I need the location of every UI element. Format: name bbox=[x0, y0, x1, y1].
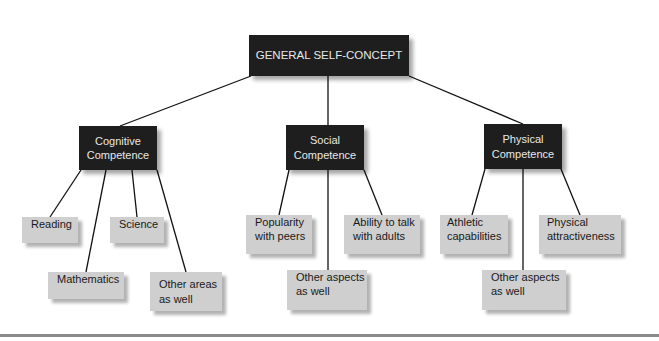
bottom-divider bbox=[0, 334, 659, 337]
category-label-line2: Competence bbox=[492, 147, 554, 161]
leaf-label-line1: Reading bbox=[31, 217, 72, 231]
category-node-cognitive: Cognitive Competence bbox=[79, 126, 157, 170]
leaf-label-line2: attractiveness bbox=[547, 229, 615, 243]
leaf-label-line2: with peers bbox=[255, 229, 305, 243]
category-label-line2: Competence bbox=[294, 148, 356, 162]
leaf-label-line2: as well bbox=[159, 292, 193, 306]
leaf-label-line1: Mathematics bbox=[57, 272, 119, 286]
leaf-node-other-areas: Other areas as well bbox=[150, 272, 222, 311]
leaf-label-line1: Science bbox=[119, 217, 158, 231]
leaf-label-line1: Other aspects bbox=[491, 270, 559, 284]
root-label: GENERAL SELF-CONCEPT bbox=[256, 48, 403, 63]
category-node-social: Social Competence bbox=[286, 125, 364, 170]
category-label-line1: Social bbox=[310, 133, 340, 147]
leaf-node-reading: Reading bbox=[22, 217, 78, 243]
leaf-label-line1: Other aspects bbox=[296, 270, 364, 284]
leaf-label-line1: Other areas bbox=[159, 277, 217, 291]
leaf-node-physical-attractiveness: Physical attractiveness bbox=[539, 215, 621, 254]
leaf-label-line2: as well bbox=[491, 284, 525, 298]
category-label-line1: Cognitive bbox=[95, 134, 141, 148]
leaf-node-social-other: Other aspects as well bbox=[287, 270, 367, 310]
leaf-label-line1: Popularity bbox=[255, 215, 304, 229]
leaf-label-line1: Physical bbox=[547, 215, 588, 229]
leaf-label-line1: Athletic bbox=[447, 215, 483, 229]
root-node-general-self-concept: GENERAL SELF-CONCEPT bbox=[249, 35, 409, 76]
leaf-node-mathematics: Mathematics bbox=[48, 272, 124, 299]
category-node-physical: Physical Competence bbox=[484, 124, 562, 169]
leaf-node-physical-other: Other aspects as well bbox=[482, 270, 566, 310]
leaf-label-line2: as well bbox=[296, 284, 330, 298]
category-label-line1: Physical bbox=[503, 132, 544, 146]
leaf-label-line2: with adults bbox=[353, 229, 405, 243]
leaf-node-science: Science bbox=[110, 217, 164, 243]
category-label-line2: Competence bbox=[87, 148, 149, 162]
leaf-label-line2: capabilities bbox=[447, 229, 501, 243]
leaf-node-ability-talk-adults: Ability to talk with adults bbox=[344, 215, 420, 254]
leaf-label-line1: Ability to talk bbox=[353, 215, 415, 229]
leaf-node-popularity: Popularity with peers bbox=[246, 215, 312, 254]
leaf-node-athletic: Athletic capabilities bbox=[440, 215, 508, 254]
